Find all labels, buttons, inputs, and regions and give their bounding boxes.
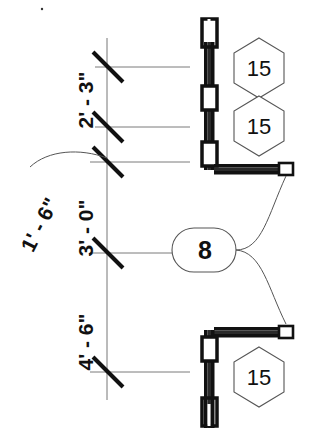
post-hollow-corner-lower bbox=[202, 337, 217, 361]
hex-callout-mid[interactable]: 15 bbox=[234, 96, 284, 156]
ink-speck bbox=[41, 8, 43, 10]
leader-line-1-6 bbox=[30, 152, 107, 167]
hex-callout-top-label: 15 bbox=[247, 56, 271, 81]
post-hollow-upper bbox=[202, 86, 217, 110]
pill-callout-8[interactable]: 8 bbox=[172, 228, 236, 272]
wall-assembly-upper bbox=[202, 19, 293, 175]
hex-callout-top[interactable]: 15 bbox=[234, 38, 284, 98]
end-cap-lower bbox=[279, 326, 293, 338]
leader-line-8-to-upper-cap bbox=[236, 176, 286, 250]
dimension-label-2-3: 2' - 3" bbox=[74, 72, 97, 129]
wall-horizontal-lower-core bbox=[214, 331, 288, 335]
hex-callout-bottom[interactable]: 15 bbox=[234, 347, 284, 407]
dimension-labels-group: 2' - 3" 1' - 6" 3' - 0" 4' - 6" bbox=[16, 72, 97, 371]
drawing-canvas: 2' - 3" 1' - 6" 3' - 0" 4' - 6" bbox=[0, 0, 310, 444]
hex-callout-bottom-label: 15 bbox=[247, 365, 271, 390]
architectural-drawing-svg: 2' - 3" 1' - 6" 3' - 0" 4' - 6" bbox=[0, 0, 310, 444]
dimension-ticks-group bbox=[93, 52, 123, 387]
dimension-label-3-0: 3' - 0" bbox=[74, 200, 97, 257]
wall-horizontal-lower-face-bottom bbox=[214, 334, 288, 338]
extension-lines-group bbox=[90, 67, 190, 372]
wall-horizontal-upper-face-bottom bbox=[214, 171, 288, 175]
wall-horizontal-lower-face-top bbox=[214, 327, 288, 331]
dimension-label-1-6: 1' - 6" bbox=[16, 194, 62, 255]
leader-line-8-to-lower-cap bbox=[236, 250, 286, 324]
wall-horizontal-upper-face-top bbox=[214, 164, 288, 168]
pill-callout-8-label: 8 bbox=[198, 236, 212, 264]
hex-callout-mid-label: 15 bbox=[247, 114, 271, 139]
dimension-label-4-6: 4' - 6" bbox=[74, 314, 97, 371]
wall-horizontal-upper-core bbox=[214, 168, 288, 172]
post-hollow-corner-upper bbox=[202, 142, 217, 166]
end-cap-upper bbox=[279, 163, 293, 175]
